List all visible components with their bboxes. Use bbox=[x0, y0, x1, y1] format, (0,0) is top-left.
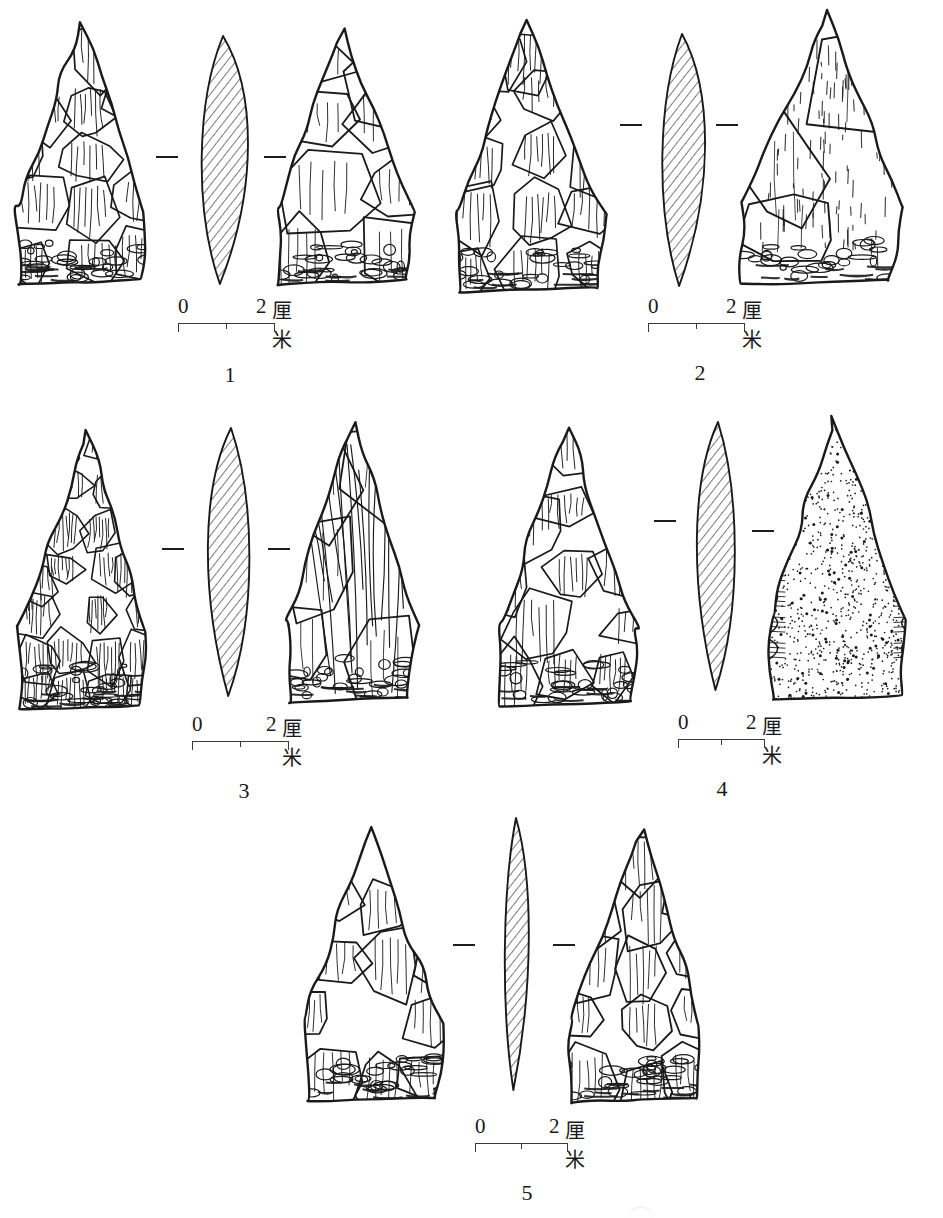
section-plane-mark-1 bbox=[162, 548, 184, 550]
figure-number-5: 5 bbox=[477, 1180, 577, 1206]
figure-number-3: 3 bbox=[194, 778, 294, 804]
scale-tick-2 bbox=[274, 323, 275, 332]
specimen-5-obverse-drawing bbox=[295, 822, 455, 1102]
specimen-1: 02厘米1 bbox=[8, 22, 428, 400]
scale-tick-0 bbox=[192, 741, 193, 750]
section-plane-mark-2 bbox=[553, 944, 575, 946]
scale-tick-2 bbox=[764, 739, 765, 748]
scale-label-two: 2 bbox=[266, 712, 277, 737]
specimen-1-views bbox=[8, 22, 428, 290]
specimen-4-reverse-drawing bbox=[762, 418, 918, 700]
scale-tick-0 bbox=[648, 323, 649, 332]
scale-tick-1 bbox=[721, 739, 722, 745]
figure-number-4: 4 bbox=[672, 776, 772, 802]
section-plane-mark-1 bbox=[156, 156, 178, 158]
figure-number-2: 2 bbox=[650, 360, 750, 386]
specimen-5-reverse-drawing bbox=[561, 822, 713, 1102]
scale-tick-0 bbox=[178, 323, 179, 332]
section-plane-mark-2 bbox=[264, 156, 286, 158]
specimen-1-section-drawing bbox=[184, 36, 262, 284]
specimen-2-reverse-drawing bbox=[730, 12, 912, 284]
specimen-2-views bbox=[448, 12, 918, 294]
specimen-3-reverse-drawing bbox=[278, 424, 428, 702]
scale-tick-0 bbox=[475, 1143, 476, 1152]
specimen-3-views bbox=[10, 424, 430, 712]
specimen-5: 02厘米5 bbox=[295, 818, 695, 1218]
specimen-4-views bbox=[490, 418, 920, 710]
specimen-2-obverse-drawing bbox=[448, 20, 618, 292]
scale-label-two: 2 bbox=[256, 294, 267, 319]
scale-unit-label: 厘米 bbox=[762, 711, 782, 769]
scale-tick-2 bbox=[567, 1143, 568, 1152]
specimen-4-section-drawing bbox=[686, 422, 750, 690]
section-plane-mark-2 bbox=[268, 548, 290, 550]
scale-tick-1 bbox=[240, 741, 241, 747]
artifact-plate: 02厘米1 02厘米2 02厘米3 02厘米4 02厘米5 bbox=[0, 0, 943, 1218]
scale-tick-1 bbox=[521, 1143, 522, 1149]
section-plane-mark-1 bbox=[620, 124, 642, 126]
specimen-2: 02厘米2 bbox=[448, 12, 918, 404]
specimen-3-obverse-drawing bbox=[10, 430, 158, 710]
scale-label-two: 2 bbox=[746, 710, 757, 735]
specimen-1-reverse-drawing bbox=[268, 30, 426, 284]
scale-label-two: 2 bbox=[726, 294, 737, 319]
scale-label-zero: 0 bbox=[178, 294, 189, 319]
scale-unit-label: 厘米 bbox=[282, 713, 302, 771]
section-plane-mark-1 bbox=[654, 520, 676, 522]
specimen-2-section-drawing bbox=[646, 34, 718, 286]
specimen-1-obverse-drawing bbox=[8, 22, 158, 284]
scale-tick-1 bbox=[696, 323, 697, 329]
specimen-5-views bbox=[295, 818, 695, 1108]
specimen-4-obverse-drawing bbox=[490, 428, 650, 706]
scale-label-zero: 0 bbox=[648, 294, 659, 319]
figure-number-1: 1 bbox=[180, 362, 280, 388]
scale-tick-0 bbox=[678, 739, 679, 748]
specimen-4: 02厘米4 bbox=[490, 418, 920, 820]
section-plane-mark-1 bbox=[453, 944, 475, 946]
specimen-3-section-drawing bbox=[196, 428, 266, 696]
specimen-3: 02厘米3 bbox=[10, 424, 430, 822]
scale-unit-label: 厘米 bbox=[272, 295, 292, 353]
specimen-5-section-drawing bbox=[483, 818, 549, 1090]
scale-label-zero: 0 bbox=[475, 1114, 486, 1139]
scale-tick-2 bbox=[744, 323, 745, 332]
scale-tick-2 bbox=[288, 741, 289, 750]
scale-unit-label: 厘米 bbox=[742, 295, 762, 353]
scale-unit-label: 厘米 bbox=[565, 1115, 585, 1173]
scale-tick-1 bbox=[226, 323, 227, 329]
section-plane-mark-2 bbox=[716, 124, 738, 126]
section-plane-mark-2 bbox=[752, 530, 774, 532]
scale-label-zero: 0 bbox=[192, 712, 203, 737]
scale-label-zero: 0 bbox=[678, 710, 689, 735]
scale-label-two: 2 bbox=[549, 1114, 560, 1139]
